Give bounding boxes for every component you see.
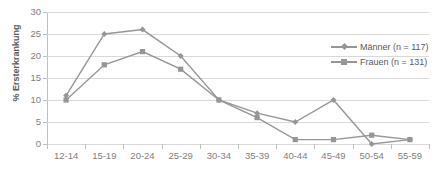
y-tick-mark [43, 78, 47, 79]
legend-marker-diamond-icon [331, 41, 357, 52]
data-point-marker [64, 97, 69, 102]
series-layer [0, 0, 439, 171]
data-point-marker [292, 119, 298, 125]
data-point-marker [102, 62, 107, 67]
line-chart: % Ersterkrankung 051015202530 12-1415-19… [0, 0, 439, 171]
legend-label-frauen: Frauen (n = 131) [360, 57, 427, 67]
data-point-marker [369, 133, 374, 138]
y-tick-mark [43, 100, 47, 101]
legend-marker-square-icon [331, 56, 357, 67]
y-tick-mark [43, 34, 47, 35]
chart-legend: Männer (n = 117) Frauen (n = 131) [331, 39, 429, 69]
legend-label-maenner: Männer (n = 117) [360, 42, 429, 52]
data-point-marker [216, 97, 221, 102]
data-point-marker [178, 67, 183, 72]
legend-item-frauen: Frauen (n = 131) [331, 54, 429, 69]
y-tick-mark [43, 144, 47, 145]
y-tick-mark [43, 56, 47, 57]
data-point-marker [293, 137, 298, 142]
y-tick-mark [43, 12, 47, 13]
data-point-marker [255, 115, 260, 120]
y-tick-mark [43, 122, 47, 123]
legend-item-maenner: Männer (n = 117) [331, 39, 429, 54]
data-point-marker [140, 49, 145, 54]
data-point-marker [331, 137, 336, 142]
data-point-marker [407, 137, 412, 142]
